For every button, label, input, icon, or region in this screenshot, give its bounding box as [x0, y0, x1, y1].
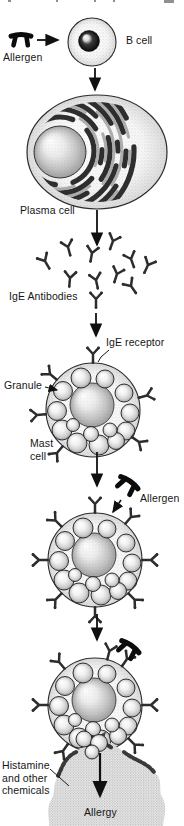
allergy-response-diagram: Allergen B cell Plasma cell IgE Antibodi… [0, 0, 184, 826]
histamine-label-line2: and other [2, 772, 50, 785]
mast-cell-2 [32, 497, 159, 624]
ige-antibody-icon [62, 270, 77, 288]
ige-antibody-icon [84, 245, 101, 264]
ige-antibody-icon [89, 292, 103, 309]
ige-antibody-icon [107, 265, 125, 286]
ige-antibody-icon [59, 238, 77, 258]
arrow-allergen-to-receptor [113, 500, 121, 512]
b-cell-nucleus [79, 31, 100, 52]
ige-antibody-icon [35, 251, 56, 273]
plasma-cell [0, 77, 167, 225]
mast-cell-label-line2: cell [30, 450, 53, 463]
ige-receptor-leader-line [98, 350, 109, 362]
ige-receptor-icon [141, 553, 158, 567]
b-cell [68, 18, 116, 66]
ige-antibody-icon [88, 271, 105, 291]
ige-antibodies-label: IgE Antibodies [9, 290, 78, 303]
b-cell-label: B cell [126, 34, 152, 47]
mast-cell-label-line1: Mast [30, 437, 53, 450]
ige-receptor-label: IgE receptor [106, 336, 164, 349]
plasma-cell-label: Plasma cell [20, 204, 75, 217]
cropped-text-remnant [8, 0, 174, 3]
allergen-icon [115, 475, 138, 496]
allergen-icon [11, 35, 31, 46]
granule-label: Granule [4, 379, 42, 392]
ige-antibody-icon [121, 276, 142, 298]
allergen-label-top: Allergen [3, 51, 42, 64]
histamine-label: Histamine and other chemicals [2, 759, 50, 797]
mast-cell-label: Mast cell [30, 437, 53, 462]
histamine-label-line1: Histamine [2, 759, 50, 772]
ige-receptor-icon [141, 698, 158, 712]
ige-receptor-icon [32, 553, 49, 567]
ige-receptor-icon [88, 606, 102, 623]
ige-receptor-icon [29, 407, 47, 422]
ige-antibody-icon [138, 255, 158, 276]
allergy-label: Allergy [84, 806, 117, 819]
ige-antibody-icon [122, 250, 141, 271]
histamine-label-line3: chemicals [2, 784, 50, 797]
ige-antibody-icon [103, 232, 122, 253]
ige-receptor-icon [88, 497, 102, 514]
ige-receptor-icon [86, 347, 100, 364]
allergen-label-mid: Allergen [140, 492, 179, 505]
ige-receptor-icon [32, 698, 49, 712]
